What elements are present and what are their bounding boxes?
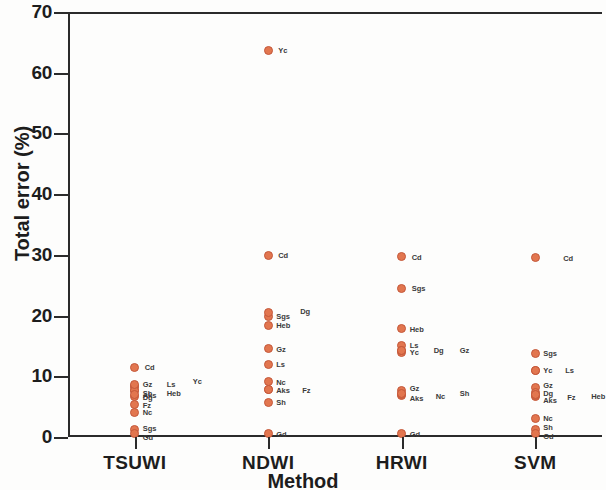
data-point-label: Yc bbox=[543, 366, 552, 375]
y-axis-tick bbox=[54, 12, 68, 14]
y-axis-tick-label: 20 bbox=[0, 306, 52, 325]
x-axis-tick bbox=[402, 437, 404, 449]
y-axis-tick-label: 10 bbox=[0, 366, 52, 385]
y-axis-tick bbox=[54, 255, 68, 257]
data-point bbox=[264, 385, 273, 394]
data-point-label: Gz bbox=[410, 383, 419, 392]
y-axis-tick-label: 30 bbox=[0, 245, 52, 264]
data-point-label: Yc bbox=[193, 376, 202, 385]
data-point-label: Nc bbox=[543, 414, 552, 423]
data-point bbox=[264, 344, 273, 353]
y-axis-tick bbox=[54, 316, 68, 318]
data-point-label: Aks bbox=[276, 385, 289, 394]
data-point-label: Aks bbox=[410, 393, 423, 402]
y-axis-tick-label: 60 bbox=[0, 63, 52, 82]
data-point-label: Gz bbox=[143, 379, 152, 388]
y-axis-tick bbox=[54, 73, 68, 75]
data-point-label: Nc bbox=[143, 408, 152, 417]
data-point-label: Heb bbox=[276, 321, 290, 330]
data-point bbox=[264, 46, 273, 55]
data-point bbox=[264, 321, 273, 330]
data-point-label: Gz bbox=[276, 344, 285, 353]
data-point bbox=[397, 389, 406, 398]
data-point bbox=[397, 324, 406, 333]
data-point-label: Dg bbox=[434, 346, 444, 355]
y-axis-tick-label: 40 bbox=[0, 184, 52, 203]
data-point bbox=[130, 408, 139, 417]
data-point-label: Cd bbox=[412, 252, 422, 261]
x-axis-tick-label-svm: SVM bbox=[470, 452, 600, 474]
data-point bbox=[264, 308, 273, 317]
data-point bbox=[264, 251, 273, 260]
x-axis-tick-label-tsuwi: TSUWI bbox=[70, 452, 200, 474]
data-point bbox=[397, 346, 406, 355]
data-point-label: Yc bbox=[410, 348, 419, 357]
data-point-label: Fz bbox=[567, 393, 575, 402]
data-point-label: Cd bbox=[563, 253, 573, 262]
data-point-label: Gd bbox=[143, 432, 153, 441]
data-point-label: Cd bbox=[278, 251, 288, 260]
data-point-label: Ls bbox=[167, 379, 176, 388]
y-axis-tick bbox=[54, 133, 68, 135]
data-point-label: Ls bbox=[565, 366, 574, 375]
data-point-label: Fz bbox=[302, 385, 310, 394]
data-point-label: Sh bbox=[276, 398, 285, 407]
data-point-label: Nc bbox=[436, 391, 445, 400]
data-point bbox=[264, 398, 273, 407]
data-point bbox=[130, 363, 139, 372]
data-point bbox=[397, 252, 406, 261]
data-point-label: Sgs bbox=[412, 284, 425, 293]
data-point bbox=[531, 390, 540, 399]
x-axis-tick-label-hrwi: HRWI bbox=[337, 452, 467, 474]
data-point bbox=[531, 349, 540, 358]
data-point bbox=[531, 414, 540, 423]
y-axis-tick-label: 0 bbox=[0, 427, 52, 446]
data-point-label: Cd bbox=[145, 363, 155, 372]
data-point-label: Aks bbox=[543, 395, 556, 404]
data-point-label: Sh bbox=[460, 389, 469, 398]
data-point-label: Heb bbox=[167, 388, 181, 397]
data-point-label: Heb bbox=[591, 391, 605, 400]
data-point bbox=[531, 366, 540, 375]
data-point-label: Aks bbox=[143, 390, 156, 399]
x-axis-tick bbox=[135, 437, 137, 449]
data-point-label: Sgs bbox=[276, 312, 289, 321]
plot-area: CdGzLsShHebYcDgFzNcSgsGdAksYcCdSgsDgHebG… bbox=[68, 12, 602, 437]
data-point-label: Sgs bbox=[543, 349, 556, 358]
y-axis-tick bbox=[54, 437, 68, 439]
y-axis-tick bbox=[54, 376, 68, 378]
data-point-label: Yc bbox=[278, 46, 287, 55]
data-point-label: Dg bbox=[300, 306, 310, 315]
y-axis-tick-label: 50 bbox=[0, 123, 52, 142]
data-point-label: Sh bbox=[543, 423, 552, 432]
data-point-label: Gd bbox=[410, 429, 420, 438]
data-point-label: Gd bbox=[276, 429, 286, 438]
data-point bbox=[531, 253, 540, 262]
data-point-label: Gz bbox=[460, 346, 469, 355]
y-axis-tick-label: 70 bbox=[0, 2, 52, 21]
scatter-plot-figure: Total error (%) CdGzLsShHebYcDgFzNcSgsGd… bbox=[0, 0, 606, 490]
data-point-label: Sgs bbox=[143, 423, 156, 432]
x-axis-tick bbox=[535, 437, 537, 449]
data-point-label: Ls bbox=[276, 360, 285, 369]
data-point-label: Gd bbox=[543, 432, 553, 441]
data-point bbox=[397, 284, 406, 293]
data-point-label: Heb bbox=[410, 324, 424, 333]
x-axis-tick bbox=[268, 437, 270, 449]
y-axis-tick bbox=[54, 194, 68, 196]
x-axis-tick-label-ndwi: NDWI bbox=[203, 452, 333, 474]
data-point bbox=[264, 360, 273, 369]
